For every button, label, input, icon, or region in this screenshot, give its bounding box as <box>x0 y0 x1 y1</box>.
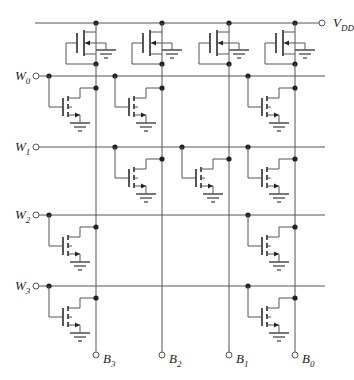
word-line-label-2: W2 <box>15 208 30 225</box>
junction-node <box>292 295 297 300</box>
arrow-icon <box>218 41 223 46</box>
arrow-icon <box>75 113 80 118</box>
arrow-icon <box>208 184 213 189</box>
arrow-icon <box>75 323 80 328</box>
arrow-icon <box>274 323 279 328</box>
word-line-terminal-2 <box>33 212 39 218</box>
junction-node <box>93 295 98 300</box>
junction-node <box>93 85 98 90</box>
bit-line-terminal-2 <box>159 352 165 358</box>
bit-line-label-2: B2 <box>169 352 181 369</box>
arrow-icon <box>274 184 279 189</box>
arrow-icon <box>274 252 279 257</box>
bit-line-label-3: B3 <box>103 352 115 369</box>
bit-line-label-1: B1 <box>236 352 248 369</box>
junction-node <box>292 156 297 161</box>
vdd-label: VDD <box>333 16 354 33</box>
arrow-icon <box>75 252 80 257</box>
arrow-icon <box>85 41 90 46</box>
arrow-icon <box>284 41 289 46</box>
bit-line-label-0: B0 <box>302 352 314 369</box>
word-line-terminal-1 <box>33 144 39 150</box>
word-line-terminal-0 <box>33 73 39 79</box>
arrow-icon <box>274 113 279 118</box>
junction-node <box>159 156 164 161</box>
junction-node <box>159 85 164 90</box>
junction-node <box>226 156 231 161</box>
word-line-label-3: W3 <box>15 279 30 296</box>
arrow-icon <box>141 113 146 118</box>
junction-node <box>292 224 297 229</box>
junction-node <box>93 224 98 229</box>
bit-line-terminal-0 <box>292 352 298 358</box>
word-line-label-1: W1 <box>15 140 30 157</box>
arrow-icon <box>151 41 156 46</box>
word-line-terminal-3 <box>33 283 39 289</box>
bit-line-terminal-1 <box>226 352 232 358</box>
bit-line-terminal-3 <box>93 352 99 358</box>
arrow-icon <box>141 184 146 189</box>
word-line-label-0: W0 <box>15 69 30 86</box>
junction-node <box>292 85 297 90</box>
vdd-terminal <box>319 20 325 26</box>
